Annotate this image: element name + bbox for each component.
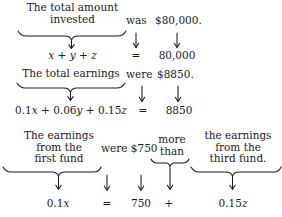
row2-value-phrase: $8850. bbox=[157, 68, 212, 80]
down-arrow-row1-value bbox=[174, 33, 179, 48]
row2-expression: 0.1x + 0.06y + 0.15z bbox=[8, 104, 134, 116]
down-arrow-row2-expression bbox=[68, 92, 73, 100]
row2-connector: were bbox=[126, 68, 154, 80]
row1-value-phrase: $80,000. bbox=[155, 14, 215, 26]
under-brace-row3-first bbox=[3, 167, 101, 176]
row3-operator: + bbox=[158, 197, 180, 209]
down-arrow-row3-relation bbox=[104, 175, 109, 190]
under-brace-row3-second bbox=[191, 167, 281, 176]
row1-phrase: The total amount invested bbox=[20, 2, 125, 25]
row3-second-expression: 0.15z bbox=[200, 197, 266, 209]
row2-relation: = bbox=[132, 104, 154, 116]
row1-connector: was bbox=[126, 14, 152, 26]
row3-second-phrase: the earnings from the third fund. bbox=[196, 130, 280, 165]
down-arrow-row3-operator bbox=[167, 168, 172, 189]
under-brace-row1 bbox=[18, 31, 126, 40]
row3-phrase: The earnings from the first fund bbox=[18, 130, 100, 165]
row3-value: 750 bbox=[122, 197, 160, 209]
row3-relation: = bbox=[96, 197, 118, 209]
down-arrow-row2-relation bbox=[139, 86, 144, 102]
under-brace-row3-comparator bbox=[151, 159, 189, 167]
row3-expression: 0.1x bbox=[28, 197, 88, 209]
row2-phrase: The total earnings bbox=[16, 68, 126, 80]
row1-expression: x + y + z bbox=[20, 49, 125, 61]
down-arrow-row2-value bbox=[175, 86, 180, 102]
down-arrow-row1-relation bbox=[133, 33, 138, 48]
under-brace-row2 bbox=[17, 83, 125, 92]
row1-value: 80,000 bbox=[152, 49, 202, 61]
row2-value: 8850 bbox=[155, 104, 203, 116]
math-figure: The total amount invested was $80,000. x… bbox=[0, 0, 282, 217]
row3-connector: were $750 bbox=[101, 142, 159, 154]
row1-relation: = bbox=[125, 49, 147, 61]
down-arrow-row3-expression bbox=[56, 176, 61, 189]
row3-comparator-phrase: more than bbox=[152, 134, 192, 157]
down-arrow-row3-value bbox=[138, 175, 143, 190]
down-arrow-row1-expression bbox=[69, 40, 74, 48]
down-arrow-row3-second-expression bbox=[230, 176, 235, 189]
